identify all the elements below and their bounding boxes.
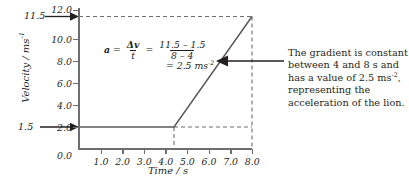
x-tick-6 xyxy=(209,149,210,154)
equation-numerator: 11.5 – 1.5 xyxy=(158,40,206,50)
equation-delta-v: Δv xyxy=(126,40,141,50)
y-tick-12 xyxy=(73,10,78,11)
y-tick-10 xyxy=(73,39,78,40)
x-tick-3 xyxy=(144,149,145,154)
equation-numeric-fraction: 11.5 – 1.5 8 – 4 xyxy=(158,40,206,60)
x-tick-5 xyxy=(187,149,188,154)
y-tick-8 xyxy=(73,61,78,62)
equation-equals-2: = xyxy=(145,45,153,55)
gradient-annotation-text: The gradient is constant between 4 and 8… xyxy=(288,47,409,109)
y-axis-title-text: Velocity / ms xyxy=(20,39,31,103)
equation-line-1: a = Δv t = 11.5 – 1.5 8 – 4 xyxy=(104,40,214,60)
x-tick-2 xyxy=(122,149,123,154)
y-tick-6 xyxy=(73,83,78,84)
annotation-line-3-text: has a value of 2.5 ms xyxy=(288,72,391,83)
value-marker-upper-label: 11.5 xyxy=(24,11,45,21)
velocity-time-graph-figure: 2.0 4.0 6.0 8.0 10.0 12.0 0.0 1.0 2.0 3.… xyxy=(0,0,409,182)
y-axis-line xyxy=(78,8,80,148)
equation-delta-v-over-t: Δv t xyxy=(126,40,141,60)
origin-label: 0.0 xyxy=(22,151,72,160)
equation-denominator: 8 – 4 xyxy=(170,50,194,61)
y-axis-title: Velocity / ms-1 xyxy=(20,23,31,113)
x-tick-label-7: 7.0 xyxy=(219,157,243,166)
annotation-line-3: has a value of 2.5 ms-2, xyxy=(288,72,409,84)
y-axis-title-exponent: -1 xyxy=(18,32,26,38)
equation-result-exponent: -2 xyxy=(208,59,214,66)
x-axis-title: Time / s xyxy=(118,165,218,176)
value-marker-lower-label: 1.5 xyxy=(18,122,33,132)
equation-line-2: = 2.5 ms-2 xyxy=(166,61,214,71)
annotation-line-4: representing the xyxy=(288,84,409,96)
y-tick-2 xyxy=(73,127,78,128)
equation-result-text: = 2.5 ms xyxy=(166,60,208,71)
x-tick-label-1: 1.0 xyxy=(89,157,113,166)
x-tick-7 xyxy=(230,149,231,154)
annotation-line-3-comma: , xyxy=(398,72,401,83)
x-tick-4 xyxy=(165,149,166,154)
annotation-line-1: The gradient is constant xyxy=(288,47,409,59)
x-tick-8 xyxy=(252,149,253,154)
x-tick-label-8: 8.0 xyxy=(240,157,264,166)
y-tick-4 xyxy=(73,105,78,106)
gradient-equation: a = Δv t = 11.5 – 1.5 8 – 4 = 2.5 ms-2 xyxy=(104,40,214,71)
equation-t: t xyxy=(130,50,136,61)
equation-symbol-a: a xyxy=(104,45,110,55)
x-tick-1 xyxy=(101,149,102,154)
annotation-line-5: acceleration of the lion. xyxy=(288,97,409,109)
equation-equals-1: = xyxy=(113,45,121,55)
